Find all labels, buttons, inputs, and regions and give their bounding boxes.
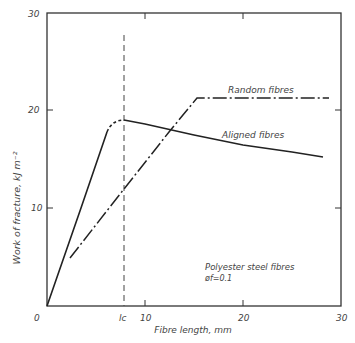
aligned-fibres-rise xyxy=(47,132,107,306)
ticks xyxy=(47,13,341,306)
x-tick-lc: lc xyxy=(119,313,127,323)
y-tick-30: 30 xyxy=(28,9,40,19)
x-tick-10: 10 xyxy=(140,313,152,323)
x-axis-title: Fibre length, mm xyxy=(154,325,232,335)
aligned-fibres-label: Aligned fibres xyxy=(221,130,284,140)
x-tick-0: 0 xyxy=(34,313,40,323)
y-axis-title: Work of fracture, kJ m⁻² xyxy=(11,151,22,264)
material-note: Polyester steel fibres xyxy=(205,262,295,272)
plot-frame xyxy=(47,13,341,306)
x-tick-30: 30 xyxy=(336,313,348,323)
y-tick-20: 20 xyxy=(28,105,40,115)
aligned-fibres-peak xyxy=(107,120,124,132)
x-tick-20: 20 xyxy=(238,313,250,323)
chart: 0 lc 10 20 30 10 20 30 Fibre length, mm … xyxy=(0,0,355,343)
volume-fraction-note: øf=0.1 xyxy=(204,274,232,283)
random-fibres-label: Random fibres xyxy=(228,85,294,95)
y-tick-10: 10 xyxy=(31,203,43,213)
random-fibres-line xyxy=(70,98,329,258)
